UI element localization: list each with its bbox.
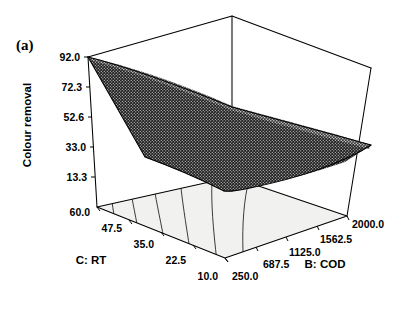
y-tick-label-2: 687.5 xyxy=(263,258,289,270)
z-tick-label-4: 33.0 xyxy=(66,141,87,153)
y-tick-label-1: 250.0 xyxy=(232,270,258,282)
z-axis-title: Colour removal xyxy=(21,83,33,167)
y-axis-title: B: COD xyxy=(305,258,346,270)
y-tick-label-5: 2000.0 xyxy=(352,218,384,230)
z-tick-label-3: 52.6 xyxy=(64,111,85,123)
x-tick-label-1: 60.0 xyxy=(70,206,91,218)
z-tick-label-5: 13.3 xyxy=(67,171,88,183)
x-axis-title: C: RT xyxy=(76,254,107,266)
z-tick-label-2: 72.3 xyxy=(62,81,83,93)
x-tick-label-4: 22.5 xyxy=(166,254,187,266)
x-tick-label-2: 47.5 xyxy=(102,222,123,234)
panel-label: (a) xyxy=(16,37,34,54)
z-tick-label-1: 92.0 xyxy=(60,51,81,63)
x-tick-label-5: 10.0 xyxy=(198,270,219,282)
x-tick-label-3: 35.0 xyxy=(134,238,155,250)
surface-plot-figure: 92.0 72.3 52.6 33.0 13.3 Colour removal … xyxy=(0,0,413,312)
y-tick-label-4: 1562.5 xyxy=(320,233,352,245)
y-tick-label-3: 1125.0 xyxy=(289,246,321,258)
